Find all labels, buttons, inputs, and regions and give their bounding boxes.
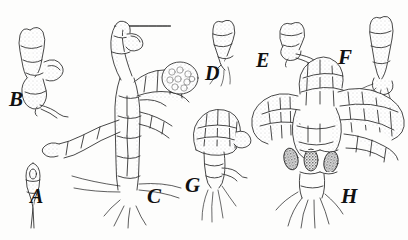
specimen-c-drawing [42,21,198,228]
specimen-label-f: F [338,47,352,68]
specimen-g-drawing [193,109,250,222]
specimen-label-h: H [341,186,357,207]
specimen-label-g: G [185,175,200,196]
specimen-label-b: B [9,89,23,110]
specimen-label-c: C [147,186,161,207]
sporangium [322,150,340,174]
specimen-label-e: E [256,50,269,70]
specimen-label-a: A [30,186,43,206]
specimen-b-drawing [19,27,68,118]
illustration-plate: A B C D E F G H [0,0,408,240]
specimen-label-d: D [205,63,219,83]
